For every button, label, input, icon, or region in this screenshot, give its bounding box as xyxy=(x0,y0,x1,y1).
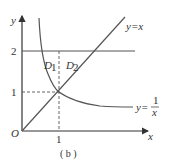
x-axis-label: x xyxy=(147,130,153,142)
y-axis-label: y xyxy=(10,14,16,26)
y-tick-2: 2 xyxy=(11,45,17,57)
label-hyperbola-den: x xyxy=(151,106,157,118)
line-y-eq-x xyxy=(22,17,125,131)
label-hyperbola-num: 1 xyxy=(153,94,159,106)
region-d2-sub: 2 xyxy=(73,61,79,73)
y-tick-1: 1 xyxy=(11,86,17,98)
origin-label: O xyxy=(11,127,19,139)
figure-caption: ( b ) xyxy=(60,148,77,160)
x-tick-1: 1 xyxy=(56,133,62,145)
label-y-eq-x: y=x xyxy=(125,20,143,32)
region-d1-sub: 1 xyxy=(51,61,57,73)
label-hyperbola-lhs: y= xyxy=(135,101,148,113)
diagram-canvas: y x O 2 1 1 y=x y= 1 x D 1 D 2 ( b ) xyxy=(0,0,169,163)
